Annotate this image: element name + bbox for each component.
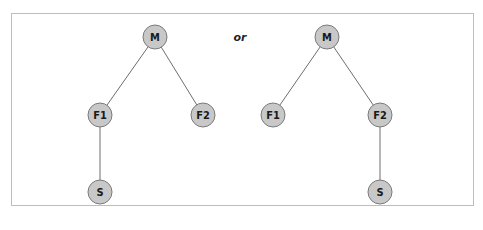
node-label: F2 bbox=[196, 109, 210, 122]
node-label: M bbox=[322, 31, 332, 44]
tree-diagram: M F1 F2 S or M F1 F2 bbox=[0, 0, 483, 230]
node-label: F2 bbox=[373, 109, 387, 122]
node-s: S bbox=[368, 180, 392, 204]
node-label: F1 bbox=[93, 109, 107, 122]
edge-m-f1 bbox=[273, 37, 327, 115]
node-f2: F2 bbox=[368, 103, 392, 127]
edge-m-f2 bbox=[155, 37, 203, 115]
edge-m-f2 bbox=[327, 37, 380, 115]
node-label: S bbox=[96, 186, 103, 199]
edge-m-f1 bbox=[100, 37, 155, 115]
cropped-caption bbox=[60, 224, 240, 230]
node-m: M bbox=[143, 25, 167, 49]
node-f1: F1 bbox=[88, 103, 112, 127]
node-m: M bbox=[315, 25, 339, 49]
left-tree: M F1 F2 S bbox=[88, 25, 215, 204]
node-s: S bbox=[88, 180, 112, 204]
node-label: F1 bbox=[266, 109, 280, 122]
node-f2: F2 bbox=[191, 103, 215, 127]
node-label: M bbox=[150, 31, 160, 44]
node-f1: F1 bbox=[261, 103, 285, 127]
right-tree: M F1 F2 S bbox=[261, 25, 392, 204]
node-label: S bbox=[376, 186, 383, 199]
or-label: or bbox=[234, 31, 248, 44]
